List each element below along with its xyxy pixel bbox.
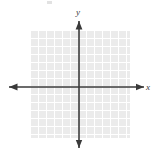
axes-group	[0, 0, 155, 153]
y-axis-label: y	[76, 8, 80, 17]
coordinate-plane-figure: y x	[0, 0, 155, 153]
x-axis-label: x	[146, 83, 150, 92]
